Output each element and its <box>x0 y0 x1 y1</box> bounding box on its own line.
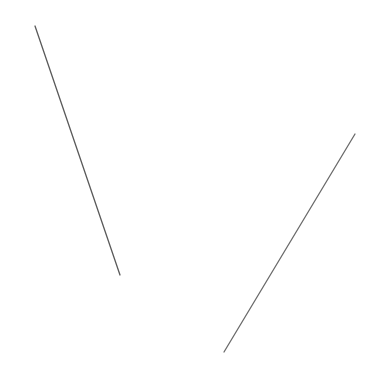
diagram-canvas <box>0 0 377 365</box>
line-segment-left <box>35 26 120 275</box>
line-segment-right <box>224 134 355 352</box>
